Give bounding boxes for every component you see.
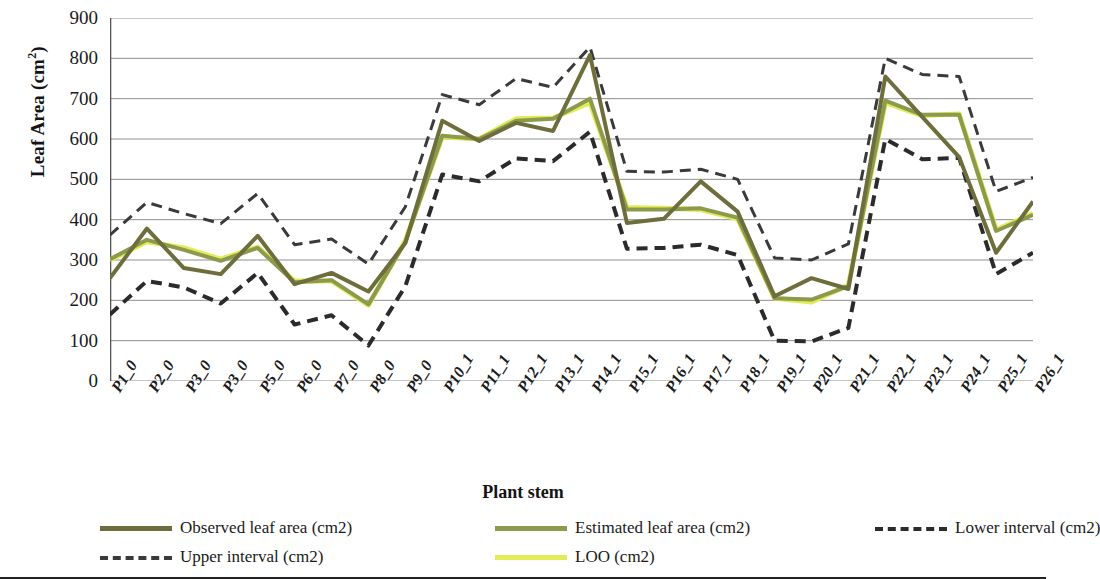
y-axis-tick-700: 700	[36, 89, 98, 108]
legend-label-0: Observed leaf area (cm2)	[180, 518, 352, 538]
legend-item-0[interactable]: Observed leaf area (cm2)	[100, 518, 352, 538]
legend-label-1: Estimated leaf area (cm2)	[575, 518, 750, 538]
legend-label-2: Lower interval (cm2)	[955, 518, 1100, 538]
legend-item-2[interactable]: Lower interval (cm2)	[875, 518, 1100, 538]
y-axis-tick-500: 500	[36, 169, 98, 188]
y-axis-tick-800: 800	[36, 48, 98, 67]
x-axis-tick-labels: P1_0P2_0P3_0P3_0P5_0P6_0P7_0P8_0P9_0P10_…	[110, 386, 1033, 476]
series-line-upper-interval-cm2	[110, 47, 1033, 264]
legend-swatch-2	[875, 527, 947, 531]
y-axis-tick-300: 300	[36, 250, 98, 269]
legend-item-1[interactable]: Estimated leaf area (cm2)	[495, 518, 750, 538]
series-line-estimated-leaf-area-cm2	[110, 99, 1033, 305]
y-axis-tick-200: 200	[36, 290, 98, 309]
legend-swatch-3	[100, 556, 172, 560]
y-axis-tick-600: 600	[36, 129, 98, 148]
legend-item-3[interactable]: Upper interval (cm2)	[100, 547, 324, 567]
y-axis-title-text: Leaf Area (cm	[27, 59, 48, 177]
legend-swatch-4	[495, 555, 567, 560]
y-axis-tick-400: 400	[36, 210, 98, 229]
legend-swatch-0	[100, 526, 172, 531]
legend-label-4: LOO (cm2)	[575, 547, 655, 567]
legend-swatch-1	[495, 526, 567, 531]
legend-label-3: Upper interval (cm2)	[180, 547, 324, 567]
series-line-loo-cm2	[110, 103, 1033, 305]
y-axis-title: Leaf Area (cm2)	[25, 0, 48, 237]
y-axis-tick-900: 900	[36, 8, 98, 27]
legend-item-4[interactable]: LOO (cm2)	[495, 547, 655, 567]
x-axis-title: Plant stem	[0, 482, 1046, 503]
y-axis-tick-0: 0	[36, 371, 98, 390]
y-axis-tick-100: 100	[36, 331, 98, 350]
chart-legend: Observed leaf area (cm2)Estimated leaf a…	[100, 518, 1046, 576]
